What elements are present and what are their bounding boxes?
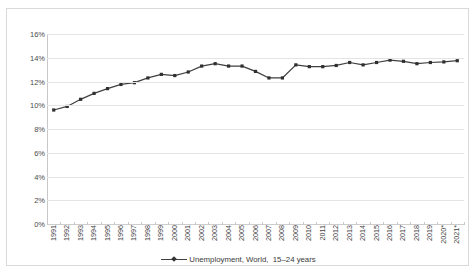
x-axis-tick-label: 2001 bbox=[184, 225, 191, 241]
data-point-marker bbox=[308, 65, 311, 68]
x-axis-tick-label: 2010 bbox=[305, 225, 312, 241]
x-axis-tick-label: 2000 bbox=[171, 225, 178, 241]
x-axis-tick-label: 2002 bbox=[198, 225, 205, 241]
x-axis-tick-mark bbox=[303, 222, 304, 225]
x-axis-tick-label: 1996 bbox=[117, 225, 124, 241]
data-point-marker bbox=[227, 64, 230, 67]
x-axis-tick-mark bbox=[101, 222, 102, 225]
x-axis-tick-label: 1995 bbox=[104, 225, 111, 241]
data-point-marker bbox=[375, 61, 378, 64]
y-axis-tick-label: 0% bbox=[7, 221, 45, 229]
x-axis-tick-label: 2016 bbox=[386, 225, 393, 241]
data-point-marker bbox=[294, 63, 297, 66]
data-point-marker bbox=[79, 98, 82, 101]
x-axis-tick-label: 1992 bbox=[63, 225, 70, 241]
x-axis-tick-mark bbox=[141, 222, 142, 225]
x-axis-tick-mark bbox=[262, 222, 263, 225]
y-axis-tick-label: 14% bbox=[7, 55, 45, 63]
x-axis-tick-label: 1994 bbox=[90, 225, 97, 241]
x-axis-tick-label: 2021* bbox=[453, 225, 460, 244]
x-axis-tick-label: 1993 bbox=[77, 225, 84, 241]
x-axis-tick-mark bbox=[370, 222, 371, 225]
data-point-marker bbox=[415, 62, 418, 65]
data-point-marker bbox=[160, 73, 163, 76]
gridline-12% bbox=[47, 82, 464, 83]
data-point-marker bbox=[254, 70, 257, 73]
gridline-14% bbox=[47, 58, 464, 59]
x-axis-tick-mark bbox=[155, 222, 156, 225]
x-axis-tick-label: 2011 bbox=[319, 225, 326, 240]
x-axis-tick-mark bbox=[424, 222, 425, 225]
plot-area bbox=[47, 34, 464, 224]
x-axis-tick-mark bbox=[343, 222, 344, 225]
x-axis-tick-label: 1991 bbox=[50, 225, 57, 241]
data-point-marker bbox=[348, 61, 351, 64]
x-axis-tick-mark bbox=[356, 222, 357, 225]
legend-line-swatch bbox=[161, 256, 187, 264]
data-point-marker bbox=[92, 92, 95, 95]
data-point-marker bbox=[388, 59, 391, 62]
data-point-marker bbox=[214, 62, 217, 65]
x-axis-tick-label: 2013 bbox=[346, 225, 353, 241]
x-axis-tick-mark bbox=[208, 222, 209, 225]
gridline-6% bbox=[47, 153, 464, 154]
data-point-marker bbox=[429, 61, 432, 64]
x-axis-tick-label: 2017 bbox=[399, 225, 406, 241]
chart-container: 0%2%4%6%8%10%12%14%16% 19911992199319941… bbox=[6, 8, 469, 266]
x-axis-tick-label: 2012 bbox=[332, 225, 339, 241]
x-axis-tick-mark bbox=[316, 222, 317, 225]
x-axis-tick-mark bbox=[74, 222, 75, 225]
gridline-10% bbox=[47, 105, 464, 106]
gridline-16% bbox=[47, 34, 464, 35]
data-point-marker bbox=[200, 64, 203, 67]
data-point-marker bbox=[187, 70, 190, 73]
x-axis-tick-mark bbox=[437, 222, 438, 225]
x-axis-tick-label: 2006 bbox=[252, 225, 259, 241]
data-point-marker bbox=[402, 60, 405, 63]
data-point-marker bbox=[281, 76, 284, 79]
data-point-marker bbox=[335, 64, 338, 67]
x-axis-tick-mark bbox=[410, 222, 411, 225]
y-axis-tick-label: 8% bbox=[7, 126, 45, 134]
x-axis-tick-label: 2015 bbox=[373, 225, 380, 241]
data-point-marker bbox=[362, 63, 365, 66]
x-axis-tick-mark bbox=[289, 222, 290, 225]
data-point-marker bbox=[267, 76, 270, 79]
gridline-4% bbox=[47, 177, 464, 178]
x-axis-tick-mark bbox=[168, 222, 169, 225]
x-axis-tick-label: 2018 bbox=[413, 225, 420, 241]
data-point-marker bbox=[119, 83, 122, 86]
x-axis-tick-label: 2005 bbox=[238, 225, 245, 241]
data-point-marker bbox=[146, 76, 149, 79]
x-axis-tick-label: 2019 bbox=[426, 225, 433, 241]
y-axis-tick-label: 10% bbox=[7, 102, 45, 110]
y-axis-tick-label: 4% bbox=[7, 174, 45, 182]
legend-label: Unemployment, World, 15–24 years bbox=[189, 255, 315, 264]
x-axis-tick-mark bbox=[128, 222, 129, 225]
x-axis-tick-mark bbox=[114, 222, 115, 225]
x-axis-tick-mark bbox=[276, 222, 277, 225]
data-point-marker bbox=[240, 64, 243, 67]
x-axis-tick-label: 1997 bbox=[130, 225, 137, 241]
data-point-marker bbox=[442, 60, 445, 63]
x-axis-tick-label: 1998 bbox=[144, 225, 151, 241]
x-axis-tick-label: 2008 bbox=[278, 225, 285, 241]
x-axis-tick-mark bbox=[383, 222, 384, 225]
data-point-marker bbox=[173, 74, 176, 77]
y-axis-tick-label: 2% bbox=[7, 197, 45, 205]
x-axis-tick-label: 2007 bbox=[265, 225, 272, 241]
x-axis-tick-label: 2014 bbox=[359, 225, 366, 241]
x-axis-tick-label: 2009 bbox=[292, 225, 299, 241]
x-axis-tick-mark bbox=[329, 222, 330, 225]
y-axis-tick-label: 16% bbox=[7, 31, 45, 39]
x-axis-tick-mark bbox=[464, 222, 465, 225]
x-axis-tick-mark bbox=[60, 222, 61, 225]
y-axis-labels: 0%2%4%6%8%10%12%14%16% bbox=[7, 34, 45, 224]
x-axis-tick-mark bbox=[182, 222, 183, 225]
x-axis-tick-mark bbox=[87, 222, 88, 225]
gridline-8% bbox=[47, 129, 464, 130]
x-axis-tick-label: 2003 bbox=[211, 225, 218, 241]
x-axis-tick-mark bbox=[451, 222, 452, 225]
x-axis-tick-mark bbox=[222, 222, 223, 225]
x-axis-tick-mark bbox=[195, 222, 196, 225]
